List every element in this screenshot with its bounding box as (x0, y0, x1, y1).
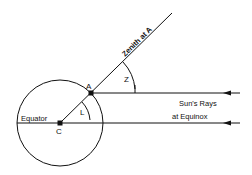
diagram-canvas: A C Equator Z L Zenith at A Sun's Rays a… (0, 0, 252, 175)
equator-label: Equator (21, 114, 48, 123)
arrow-upper-icon (223, 91, 231, 96)
angle-z-label: Z (124, 75, 129, 84)
point-c-label: C (56, 127, 62, 136)
point-c-marker (58, 121, 63, 126)
suns-rays-label-line2: at Equinox (172, 112, 208, 121)
zenith-label: Zenith at A (120, 25, 154, 59)
suns-rays-label-line1: Sun's Rays (179, 99, 217, 108)
angle-l-label: L (80, 108, 85, 117)
point-a-marker (89, 91, 94, 96)
point-a-label: A (86, 82, 92, 91)
zenith-line (60, 13, 172, 123)
arrow-lower-icon (223, 121, 231, 126)
